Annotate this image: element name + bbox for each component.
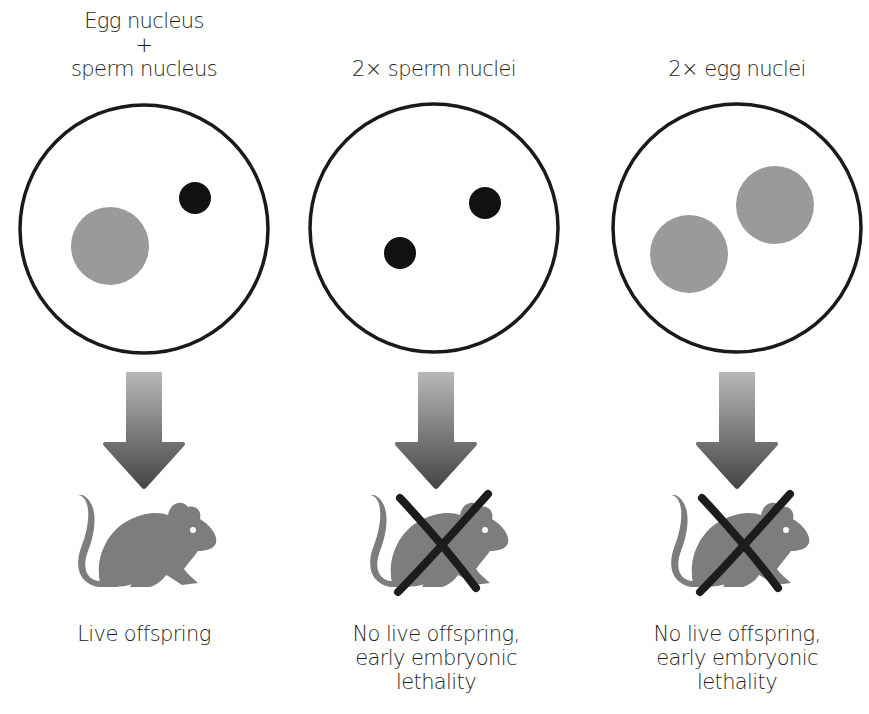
down-arrow-icon [395, 372, 477, 489]
down-arrow-icon [696, 372, 778, 489]
mouse-eye [482, 527, 488, 533]
mouse-eye [190, 527, 196, 533]
outcome-line: early embryonic [637, 646, 837, 670]
outcome-live-offspring: Live offspring [44, 622, 244, 646]
outcome-line: lethality [336, 670, 536, 694]
outcome-line: lethality [637, 670, 837, 694]
outcome-line: Live offspring [44, 622, 244, 646]
sperm-nucleus [179, 182, 211, 214]
outcome-line: No live offspring, [637, 622, 837, 646]
mouse-eye [783, 527, 789, 533]
zygote-egg-plus-sperm [20, 105, 268, 353]
diagram-graphics [0, 0, 869, 714]
cell-outline [613, 104, 861, 352]
cell-outline [310, 104, 558, 352]
outcome-line: No live offspring, [336, 622, 536, 646]
down-arrow-icon [103, 372, 185, 489]
mouse-icon [78, 494, 216, 587]
egg-nucleus [736, 166, 814, 244]
egg-nucleus [71, 207, 149, 285]
sperm-nucleus [469, 187, 501, 219]
outcome-line: early embryonic [336, 646, 536, 670]
zygote-two-sperm [310, 104, 558, 352]
egg-nucleus [650, 215, 728, 293]
sperm-nucleus [384, 237, 416, 269]
outcome-gynogenetic-lethality: No live offspring, early embryonic letha… [637, 622, 837, 694]
outcome-androgenetic-lethality: No live offspring, early embryonic letha… [336, 622, 536, 694]
zygote-two-egg [613, 104, 861, 352]
